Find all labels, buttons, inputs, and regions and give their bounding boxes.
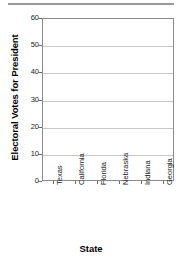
x-axis-tick-mark	[141, 181, 142, 184]
y-axis-tick-labels: 6050403020100	[10, 18, 39, 181]
y-axis-tick-label: 30	[13, 96, 39, 104]
y-axis-tick-label: 0	[13, 177, 39, 185]
x-axis-tick-label: Texas	[56, 165, 64, 185]
x-axis-tick-mark	[119, 181, 120, 184]
y-axis-tick-label: 10	[13, 150, 39, 158]
y-axis-tick-label: 20	[13, 123, 39, 131]
chart-figure: Electoral Votes for President 6050403020…	[0, 0, 182, 267]
gridlines	[43, 19, 173, 180]
plot-area	[42, 18, 174, 181]
y-axis-tick-label: 50	[13, 41, 39, 49]
gridline	[43, 101, 173, 102]
x-axis-tick-label: Georgia	[166, 158, 174, 185]
top-rule-divider	[8, 3, 174, 5]
x-axis-tick-mark	[75, 181, 76, 184]
y-axis-tick-label: 40	[13, 69, 39, 77]
y-axis-tick-label: 60	[13, 14, 39, 22]
x-axis-tick-label: Florida	[100, 162, 108, 185]
gridline	[43, 155, 173, 156]
gridline	[43, 46, 173, 47]
x-axis-tick-label: California	[78, 153, 86, 185]
x-axis-tick-mark	[53, 181, 54, 184]
gridline	[43, 128, 173, 129]
x-axis-tick-mark	[97, 181, 98, 184]
x-axis-tick-mark	[163, 181, 164, 184]
x-axis-tick-label: Indiana	[144, 160, 152, 185]
x-axis-title: State	[0, 243, 182, 254]
x-axis-tick-label: Nebraska	[122, 153, 130, 185]
x-axis-tick-labels: TexasCaliforniaFloridaNebraskaIndianaGeo…	[42, 185, 174, 233]
gridline	[43, 73, 173, 74]
